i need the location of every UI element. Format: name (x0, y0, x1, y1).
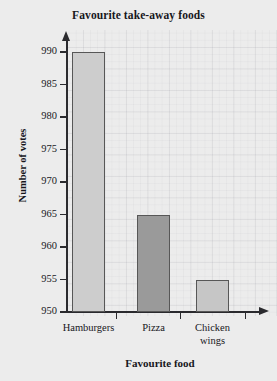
x-axis-tick (116, 312, 117, 319)
y-axis-arrow-icon (62, 31, 70, 41)
y-axis-tick-label: 985 (20, 79, 57, 90)
y-axis-tick (60, 214, 67, 215)
bar-hamburgers (72, 52, 105, 312)
y-axis-tick (60, 181, 67, 182)
x-axis-tick (180, 312, 181, 319)
y-axis-tick (60, 279, 67, 280)
y-axis-tick (60, 116, 67, 117)
y-axis-tick (60, 149, 67, 150)
y-axis-tick-label: 990 (20, 46, 57, 57)
x-axis-tick (245, 312, 246, 319)
y-axis-tick (60, 246, 67, 247)
y-axis-tick-label: 960 (20, 241, 57, 252)
y-axis-tick (60, 311, 67, 312)
x-axis-label-chicken-wings: Chickenwings (173, 322, 253, 347)
bar-pizza (137, 215, 170, 313)
y-axis-line (66, 40, 68, 312)
y-axis-tick (60, 84, 67, 85)
bar-chicken-wings (196, 280, 229, 313)
x-axis-title: Favourite food (60, 357, 260, 369)
y-axis-tick-label: 950 (20, 306, 57, 317)
bar-chart-plot: 950955960965970975980985990 HamburgersPi… (0, 0, 277, 381)
y-axis-tick-label: 955 (20, 274, 57, 285)
y-axis-tick (60, 51, 67, 52)
x-axis-arrow-icon (259, 307, 269, 315)
y-axis-title: Number of votes (17, 111, 28, 221)
